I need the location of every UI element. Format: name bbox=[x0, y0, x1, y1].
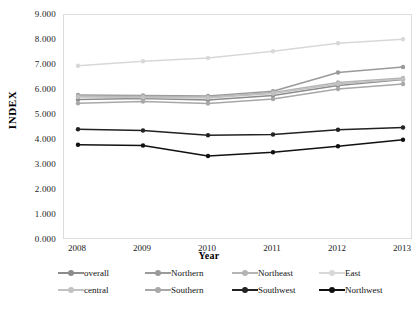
data-point bbox=[401, 82, 405, 86]
data-point bbox=[206, 96, 210, 100]
legend-marker-icon bbox=[145, 268, 171, 278]
legend-item-southwest[interactable]: Southwest bbox=[232, 281, 319, 298]
legend-marker-icon bbox=[319, 268, 345, 278]
legend-item-northern[interactable]: Northern bbox=[145, 264, 232, 281]
data-point bbox=[206, 56, 210, 60]
series-central bbox=[76, 77, 405, 100]
data-point bbox=[401, 37, 405, 41]
legend-row: overallNorthernNortheastEast bbox=[58, 264, 408, 281]
data-point bbox=[271, 97, 275, 101]
legend-label: Northern bbox=[171, 268, 204, 278]
legend-marker-icon bbox=[58, 268, 84, 278]
data-point bbox=[76, 143, 80, 147]
legend-marker-icon bbox=[232, 268, 258, 278]
data-point bbox=[76, 64, 80, 68]
data-point bbox=[141, 95, 145, 99]
legend-marker-icon bbox=[58, 285, 84, 295]
legend-item-northeast[interactable]: Northeast bbox=[232, 264, 319, 281]
plot-area bbox=[63, 14, 412, 239]
data-point bbox=[401, 77, 405, 81]
data-point bbox=[271, 49, 275, 53]
data-point bbox=[141, 143, 145, 147]
y-axis-tick: 1.000 bbox=[35, 210, 56, 219]
legend-label: overall bbox=[84, 268, 109, 278]
legend-row: centralSouthernSouthwestNorthwest bbox=[58, 281, 408, 298]
legend-label: East bbox=[345, 268, 361, 278]
y-axis-tick: 8.000 bbox=[35, 35, 56, 44]
line-chart: INDEX 0.0001.0002.0003.0004.0005.0006.00… bbox=[0, 0, 418, 311]
legend-label: Northwest bbox=[345, 285, 383, 295]
data-point bbox=[76, 127, 80, 131]
legend-label: Southern bbox=[171, 285, 204, 295]
data-point bbox=[401, 65, 405, 69]
legend-marker-icon bbox=[319, 285, 345, 295]
data-point bbox=[141, 99, 145, 103]
data-point bbox=[336, 82, 340, 86]
y-axis-tick: 6.000 bbox=[35, 85, 56, 94]
legend-item-southern[interactable]: Southern bbox=[145, 281, 232, 298]
y-axis-tick: 5.000 bbox=[35, 110, 56, 119]
chart-legend: overallNorthernNortheastEastcentralSouth… bbox=[58, 264, 408, 298]
data-point bbox=[336, 128, 340, 132]
y-axis-tick: 2.000 bbox=[35, 185, 56, 194]
series-lines bbox=[64, 15, 413, 240]
data-point bbox=[271, 150, 275, 154]
y-axis-tick: 9.000 bbox=[35, 10, 56, 19]
data-point bbox=[336, 70, 340, 74]
data-point bbox=[141, 59, 145, 63]
y-axis-tick: 7.000 bbox=[35, 60, 56, 69]
data-point bbox=[401, 125, 405, 129]
legend-item-northwest[interactable]: Northwest bbox=[319, 281, 406, 298]
data-point bbox=[206, 101, 210, 105]
data-point bbox=[76, 95, 80, 99]
legend-label: central bbox=[84, 285, 108, 295]
legend-label: Northeast bbox=[258, 268, 293, 278]
y-axis-tick: 3.000 bbox=[35, 160, 56, 169]
legend-item-overall[interactable]: overall bbox=[58, 264, 145, 281]
series-east bbox=[76, 37, 405, 68]
series-southwest bbox=[76, 125, 405, 137]
legend-item-central[interactable]: central bbox=[58, 281, 145, 298]
data-point bbox=[206, 133, 210, 137]
data-point bbox=[336, 41, 340, 45]
data-point bbox=[271, 132, 275, 136]
legend-item-east[interactable]: East bbox=[319, 264, 406, 281]
data-point bbox=[336, 87, 340, 91]
x-axis-title: Year bbox=[0, 250, 418, 261]
data-point bbox=[206, 154, 210, 158]
y-axis-tick: 4.000 bbox=[35, 135, 56, 144]
data-point bbox=[141, 128, 145, 132]
data-point bbox=[401, 138, 405, 142]
data-point bbox=[76, 101, 80, 105]
series-northwest bbox=[76, 138, 405, 159]
legend-marker-icon bbox=[232, 285, 258, 295]
y-axis-tick: 0.000 bbox=[35, 235, 56, 244]
legend-label: Southwest bbox=[258, 285, 296, 295]
y-axis-tick-labels: 0.0001.0002.0003.0004.0005.0006.0007.000… bbox=[0, 14, 60, 239]
legend-marker-icon bbox=[145, 285, 171, 295]
data-point bbox=[336, 144, 340, 148]
data-point bbox=[271, 91, 275, 95]
